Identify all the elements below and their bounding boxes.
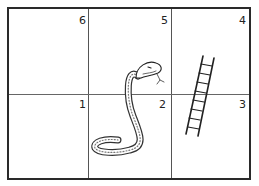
board-illustrations: [0, 0, 259, 186]
snake-icon: [95, 62, 164, 152]
ladder-icon: [186, 56, 214, 136]
